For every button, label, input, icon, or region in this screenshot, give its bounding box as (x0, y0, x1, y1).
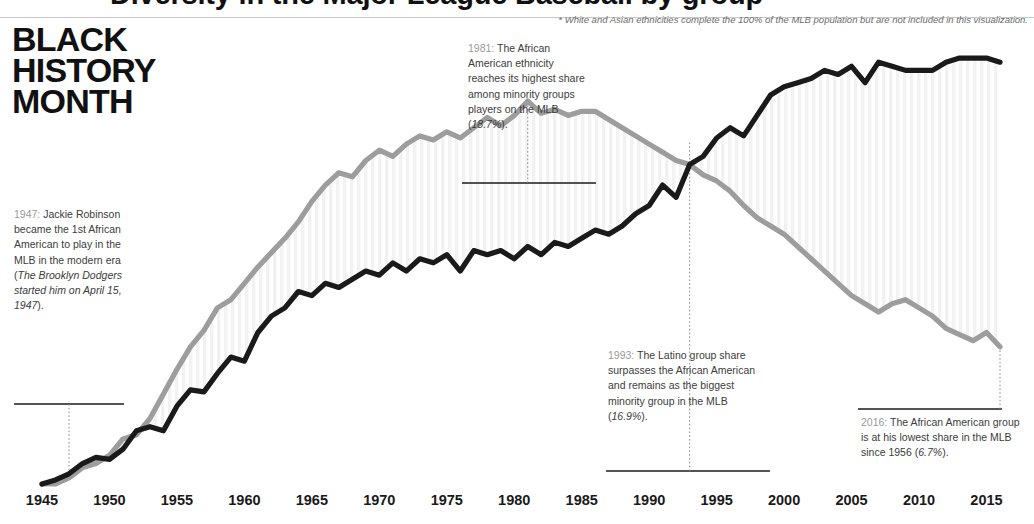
annotation-1993-tail: ). (641, 410, 647, 422)
x-axis-tick-2015: 2015 (970, 492, 1002, 508)
x-axis-tick-1960: 1960 (228, 492, 260, 508)
annotation-1993: 1993: The Latino group share surpasses t… (608, 348, 766, 424)
callout-leader-1947 (14, 404, 124, 480)
x-axis-tick-1985: 1985 (566, 492, 598, 508)
x-axis-tick-1965: 1965 (296, 492, 328, 508)
annotation-2016: 2016: The African American group is at h… (861, 415, 1021, 461)
x-axis-tick-2000: 2000 (768, 492, 800, 508)
annotation-1981: 1981: The African American ethnicity rea… (468, 41, 588, 132)
infographic-root: Diversity in the Major League Baseball b… (0, 0, 1034, 524)
annotation-2016-tail: ). (942, 446, 948, 458)
x-axis-tick-2005: 2005 (835, 492, 867, 508)
annotation-1981-text: The African American ethnicity reaches i… (468, 42, 585, 130)
x-axis-tick-2010: 2010 (903, 492, 935, 508)
annotation-1947-italic: The Brooklyn Dodgers started him on Apri… (14, 269, 122, 311)
x-axis-tick-1995: 1995 (701, 492, 733, 508)
x-axis-tick-1970: 1970 (363, 492, 395, 508)
callout-leader-2016 (858, 345, 1002, 409)
annotation-1947: 1947: Jackie Robinson became the 1st Afr… (14, 207, 122, 313)
annotation-1981-italic: 18.7% (472, 118, 502, 130)
x-axis: 1945195019551960196519701975198019851990… (0, 492, 1034, 524)
annotation-2016-year: 2016: (861, 416, 887, 428)
annotation-1993-year: 1993: (608, 349, 634, 361)
x-axis-tick-1945: 1945 (26, 492, 58, 508)
annotation-1981-year: 1981: (468, 42, 494, 54)
x-axis-tick-1990: 1990 (633, 492, 665, 508)
x-axis-tick-1950: 1950 (93, 492, 125, 508)
x-axis-tick-1975: 1975 (431, 492, 463, 508)
annotation-1993-italic: 16.9% (612, 410, 642, 422)
annotation-1947-year: 1947: (14, 208, 40, 220)
x-axis-tick-1980: 1980 (498, 492, 530, 508)
annotation-1981-tail: ). (501, 118, 507, 130)
annotation-2016-italic: 6.7% (918, 446, 942, 458)
x-axis-tick-1955: 1955 (161, 492, 193, 508)
annotation-1947-tail: ). (37, 299, 43, 311)
